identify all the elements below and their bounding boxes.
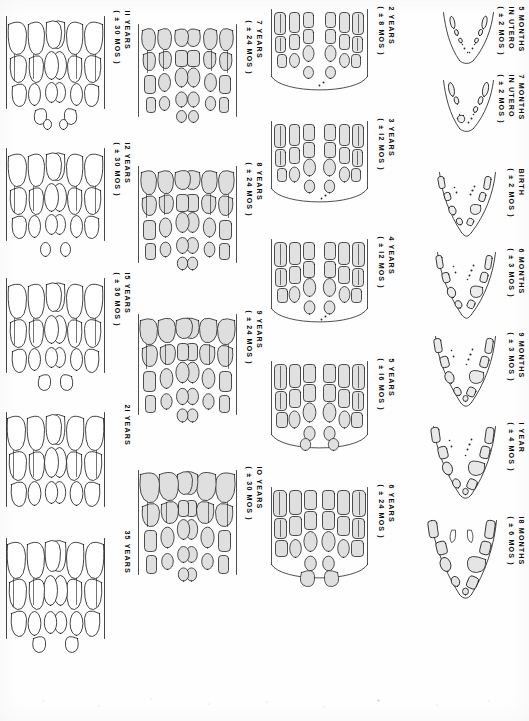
chart-row-early-childhood: 2 YEARS ( ± 8 MOS ) — [265, 0, 397, 721]
stage-label: 2 YEARS ( ± 8 MOS ) — [375, 6, 395, 106]
stage-18mo[interactable]: I8 MONTHS ( ± 6 MOS ) — [395, 516, 527, 602]
stage-8yr[interactable]: 8 YEARS ( ± 24 MOS ) — [133, 162, 265, 288]
stage-label: 2I YEARS — [121, 404, 131, 520]
stage-7mo-utero[interactable]: 7 MONTHS IN UTERO ( ± 2 MOS ) — [395, 74, 527, 136]
chart-row-permanent-dentition: II YEARS ( ± 30 MOS ) — [1, 0, 133, 721]
stage-label: I5 YEARS ( ± 36 MOS ) — [111, 272, 131, 396]
dentition-drawing — [397, 74, 501, 136]
stage-1yr[interactable]: I YEAR ( ± 4 MOS ) — [395, 422, 527, 502]
stage-label: I YEAR ( ± 4 MOS ) — [505, 422, 525, 502]
dentition-drawing — [397, 6, 501, 68]
stage-birth[interactable]: BIRTH ( ± 2 MOS ) — [395, 168, 527, 240]
dentition-drawing — [267, 6, 371, 106]
stage-label: 6 YEARS ( ± 24 MOS ) — [375, 484, 395, 596]
dentition-drawing — [3, 530, 107, 654]
dentition-chart-sheet: 5 MONTHS IN UTERO ( ± 2 MOS ) — [0, 0, 529, 721]
stage-label: I8 MONTHS ( ± 6 MOS ) — [505, 516, 525, 602]
stage-7yr[interactable]: 7 YEARS ( ± 24 MOS ) — [133, 20, 265, 142]
stage-35yr[interactable]: 35 YEARS — [1, 530, 133, 654]
stage-6yr[interactable]: 6 YEARS ( ± 24 MOS ) — [265, 484, 397, 596]
stage-3yr[interactable]: 3 YEARS ( ± I2 MOS ) — [265, 118, 397, 218]
stage-5yr[interactable]: 5 YEARS ( ± I6 MOS ) — [265, 358, 397, 464]
stage-label: IO YEARS ( ± 30 MOS ) — [243, 466, 263, 600]
dentition-drawing — [397, 248, 501, 322]
stage-2yr[interactable]: 2 YEARS ( ± 8 MOS ) — [265, 6, 397, 106]
stage-9yr[interactable]: 9 YEARS ( ± 24 MOS ) — [133, 310, 265, 440]
stage-label: 5 YEARS ( ± I6 MOS ) — [375, 358, 395, 464]
dentition-drawing — [267, 118, 371, 218]
chart-row-mixed-dentition: 7 YEARS ( ± 24 MOS ) — [133, 0, 265, 721]
scanned-page: 5 MONTHS IN UTERO ( ± 2 MOS ) — [0, 0, 529, 721]
dentition-drawing — [267, 236, 371, 338]
stage-label: 35 YEARS — [121, 530, 131, 654]
stage-label: 6 MONTHS ( ± 3 MOS ) — [505, 248, 525, 322]
dentition-drawing — [267, 484, 371, 596]
dentition-drawing — [135, 466, 239, 600]
dentition-drawing — [3, 142, 107, 264]
dentition-drawing — [135, 162, 239, 288]
stage-21yr[interactable]: 2I YEARS — [1, 404, 133, 520]
dentition-drawing — [135, 310, 239, 440]
stage-label: II YEARS ( ± 30 MOS ) — [111, 10, 131, 132]
stage-11yr[interactable]: II YEARS ( ± 30 MOS ) — [1, 10, 133, 132]
stage-label: 9 MONTHS ( ± 3 MOS ) — [505, 332, 525, 410]
stage-label: I2 YEARS ( ± 30 MOS ) — [111, 142, 131, 264]
stage-label: 3 YEARS ( ± I2 MOS ) — [375, 118, 395, 218]
dentition-drawing — [397, 168, 501, 240]
chart-row-prenatal-infancy: 5 MONTHS IN UTERO ( ± 2 MOS ) — [395, 0, 527, 721]
dentition-drawing — [3, 404, 107, 520]
stage-15yr[interactable]: I5 YEARS ( ± 36 MOS ) — [1, 272, 133, 396]
stage-label: BIRTH ( ± 2 MOS ) — [505, 168, 525, 240]
dentition-drawing — [3, 10, 107, 132]
dentition-drawing — [267, 358, 371, 464]
dentition-drawing — [397, 332, 501, 410]
stage-label: 9 YEARS ( ± 24 MOS ) — [243, 310, 263, 440]
stage-label: 8 YEARS ( ± 24 MOS ) — [243, 162, 263, 288]
dentition-drawing — [3, 272, 107, 396]
dentition-drawing — [397, 516, 501, 602]
stage-label: 4 YEARS ( ± I2 MOS ) — [375, 236, 395, 338]
stage-6mo[interactable]: 6 MONTHS ( ± 3 MOS ) — [395, 248, 527, 322]
dentition-drawing — [135, 20, 239, 142]
stage-9mo[interactable]: 9 MONTHS ( ± 3 MOS ) — [395, 332, 527, 410]
dentition-drawing — [397, 422, 501, 502]
stage-5mo-utero[interactable]: 5 MONTHS IN UTERO ( ± 2 MOS ) — [395, 6, 527, 68]
stage-12yr[interactable]: I2 YEARS ( ± 30 MOS ) — [1, 142, 133, 264]
stage-4yr[interactable]: 4 YEARS ( ± I2 MOS ) — [265, 236, 397, 338]
stage-10yr[interactable]: IO YEARS ( ± 30 MOS ) — [133, 466, 265, 600]
stage-label: 7 YEARS ( ± 24 MOS ) — [243, 20, 263, 142]
